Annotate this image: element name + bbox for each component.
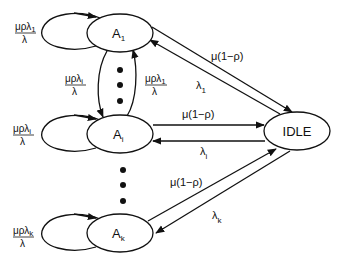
edge-ai-to-a1 [127, 50, 136, 116]
label-ak-to-idle: μ(1−ρ) [170, 176, 202, 188]
edge-a1-to-ai [98, 51, 107, 117]
label-ai-to-idle: μ(1−ρ) [182, 108, 214, 120]
node-idle: IDLE [264, 112, 330, 150]
svg-text:IDLE: IDLE [283, 124, 312, 139]
svg-text:μρλ1: μρλ1 [145, 73, 166, 86]
label-loop-ai: μρλi λ [13, 123, 34, 147]
node-ai: Ai [87, 115, 153, 153]
svg-text:λ: λ [20, 238, 25, 249]
label-loop-a1: μρλ1 λ [15, 21, 36, 45]
label-loop-ak: μρλk λ [13, 225, 34, 249]
svg-text:λ: λ [152, 86, 157, 97]
svg-text:μρλ1: μρλ1 [15, 21, 36, 34]
node-a1: A1 [87, 14, 153, 52]
svg-text:λ: λ [20, 136, 25, 147]
node-ak: Ak [87, 214, 153, 252]
ellipsis-dots-upper [117, 67, 123, 104]
edge-a1-to-idle [152, 27, 292, 112]
label-ai-to-a1: μρλ1 λ [145, 73, 167, 97]
svg-text:μρλi: μρλi [13, 123, 31, 136]
label-idle-to-a1: λ1 [196, 79, 207, 95]
svg-text:μρλk: μρλk [13, 225, 34, 238]
svg-text:λ: λ [22, 34, 27, 45]
ellipsis-dots-lower [120, 167, 126, 204]
svg-text:λ: λ [72, 86, 77, 97]
edge-idle-to-ak [156, 151, 290, 233]
state-diagram: A1 Ai Ak IDLE μρλ1 λ μρλi λ μρλk λ μρλi … [0, 0, 342, 270]
label-a1-to-ai: μρλi λ [65, 73, 86, 97]
label-a1-to-idle: μ(1−ρ) [211, 50, 243, 62]
label-idle-to-ai: λi [200, 145, 208, 161]
label-idle-to-ak: λk [212, 209, 223, 225]
svg-text:μρλi: μρλi [65, 73, 83, 86]
